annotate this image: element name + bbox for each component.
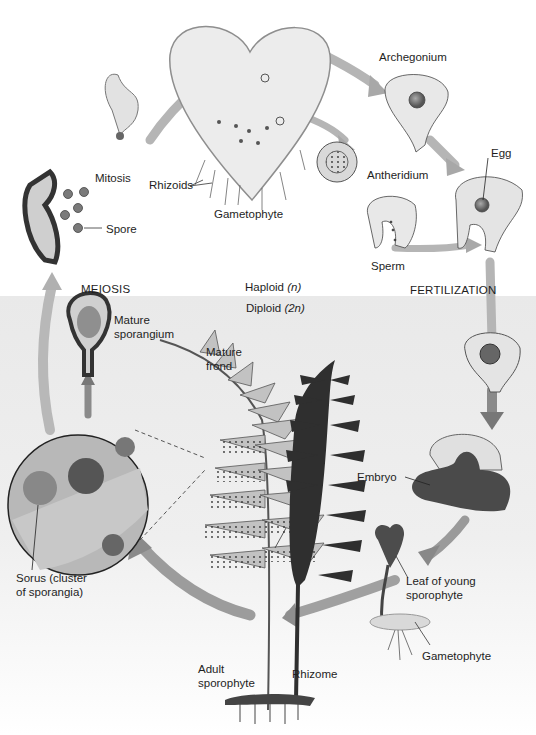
haploid-text: Haploid [245, 281, 284, 293]
archegonium [385, 75, 448, 153]
arrow-to-egg [430, 140, 455, 165]
zygote-archegonium [465, 333, 521, 392]
mature-frond-line2: frond [206, 359, 242, 373]
label-young-gametophyte: Gametophyte [422, 649, 491, 663]
leaf-young-line2: sporophyte [406, 588, 476, 602]
label-sorus: Sorus (cluster of sporangia) [16, 571, 87, 599]
adult-line1: Adult [198, 662, 255, 676]
mature-sporangium-line1: Mature [114, 313, 174, 327]
sorus-line2: of sporangia) [16, 585, 87, 599]
arrow-meiosis [43, 285, 52, 430]
sorus-line1: Sorus (cluster [16, 571, 87, 585]
label-mature-frond: Mature frond [206, 345, 242, 373]
mature-sporangium-line2: sporangium [114, 327, 174, 341]
label-leaf-young-sporophyte: Leaf of young sporophyte [406, 574, 476, 602]
label-adult-sporophyte: Adult sporophyte [198, 662, 255, 690]
sterile-frond [286, 360, 366, 700]
label-haploid: Haploid (n) [245, 280, 301, 294]
leaf-young-line1: Leaf of young [406, 574, 476, 588]
fern-life-cycle-diagram: Mitosis Spore Rhizoids Gametophyte Arche… [0, 0, 536, 735]
label-rhizome: Rhizome [292, 667, 337, 681]
rhizome [225, 694, 315, 724]
label-gametophyte: Gametophyte [214, 207, 283, 221]
label-diploid: Diploid (2n) [246, 301, 305, 315]
embryo-archegonium [405, 434, 510, 511]
diagram-artwork [0, 0, 536, 735]
antheridium-open [367, 196, 416, 248]
diploid-ploidy: (2n) [284, 302, 304, 314]
antheridium-cluster [317, 142, 357, 182]
label-rhizoids: Rhizoids [149, 178, 193, 192]
mature-frond-line1: Mature [206, 345, 242, 359]
adult-line2: sporophyte [198, 676, 255, 690]
label-embryo: Embryo [357, 470, 397, 484]
label-meiosis: MEIOSIS [81, 282, 130, 296]
sorus-magnified [8, 430, 205, 575]
archegonium-egg [456, 158, 523, 252]
label-mature-sporangium: Mature sporangium [114, 313, 174, 341]
arrow-young-to-adult [290, 580, 395, 615]
label-mitosis: Mitosis [95, 171, 131, 185]
label-sperm: Sperm [371, 259, 405, 273]
label-antheridium: Antheridium [367, 168, 428, 182]
label-fertilization: FERTILIZATION [410, 283, 497, 297]
label-archegonium: Archegonium [379, 50, 447, 64]
diploid-text: Diploid [246, 302, 281, 314]
haploid-ploidy: (n) [287, 281, 301, 293]
label-egg: Egg [491, 146, 511, 160]
label-spore: Spore [106, 222, 137, 236]
young-gametophyte [105, 74, 138, 140]
mature-sporangium [68, 293, 109, 375]
opening-sporangium [25, 172, 102, 262]
gametophyte-heart [170, 26, 331, 210]
